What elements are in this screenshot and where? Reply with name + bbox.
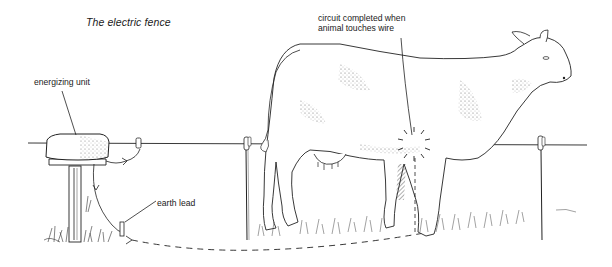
return-path [132,232,430,250]
electric-fence-diagram: The electric fence energizing unit earth… [0,0,612,267]
label-circuit-line1: circuit completed when [318,13,405,23]
label-circuit-line2: animal touches wire [318,23,405,33]
fence-post-left [244,137,251,240]
energizing-unit [44,134,141,242]
grass [258,209,576,236]
label-energizing-unit: energizing unit [34,77,90,87]
cow [261,30,571,236]
earth-rod [120,201,156,244]
label-circuit-completed: circuit completed when animal touches wi… [318,13,405,33]
diagram-title: The electric fence [86,16,171,28]
fence-post-right [538,136,545,240]
label-earth-lead: earth lead [157,198,195,208]
diagram-illustration [0,0,612,267]
energizer-callout-line [62,91,76,135]
